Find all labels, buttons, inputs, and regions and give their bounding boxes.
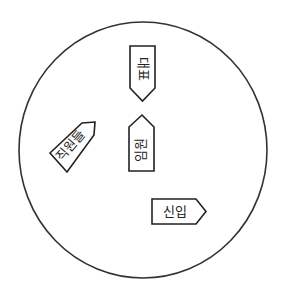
- tag-top: 대표: [130, 46, 155, 101]
- tag-right-label: 신입: [163, 204, 187, 219]
- diagram-canvas: 대표 임원 직원들 신입: [0, 0, 285, 295]
- tag-top-label: 대표: [136, 57, 151, 81]
- tag-right: 신입: [152, 199, 206, 224]
- tag-middle-label: 임원: [133, 138, 148, 162]
- tag-left: 직원들: [50, 122, 95, 172]
- tag-middle: 임원: [129, 115, 154, 171]
